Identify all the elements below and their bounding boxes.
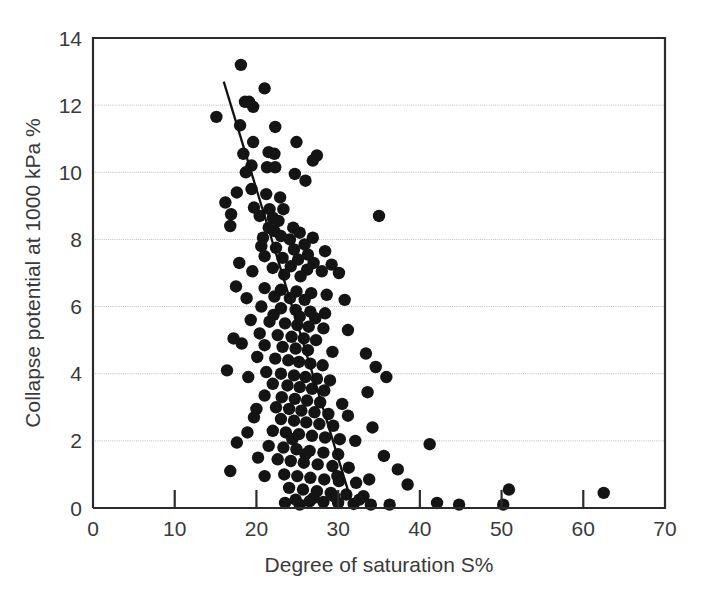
data-point	[289, 342, 301, 354]
data-point	[231, 186, 243, 198]
data-point	[297, 483, 309, 495]
gridlines	[93, 105, 665, 441]
data-point	[269, 161, 281, 173]
data-point	[313, 418, 325, 430]
x-tick-label: 20	[245, 517, 268, 540]
data-point	[240, 292, 252, 304]
data-point	[290, 136, 302, 148]
data-point	[308, 406, 320, 418]
data-point	[258, 389, 270, 401]
data-point	[225, 208, 237, 220]
y-tick-label: 4	[70, 362, 82, 385]
data-point	[263, 315, 275, 327]
y-tick-label: 0	[70, 497, 82, 520]
data-point	[317, 446, 329, 458]
data-point	[221, 364, 233, 376]
data-point	[295, 404, 307, 416]
data-point	[279, 317, 291, 329]
data-point	[285, 455, 297, 467]
data-point	[317, 322, 329, 334]
data-point	[274, 191, 286, 203]
data-point	[370, 361, 382, 373]
data-point	[363, 473, 375, 485]
data-point	[271, 453, 283, 465]
data-point	[260, 188, 272, 200]
data-point	[258, 250, 270, 262]
data-point	[380, 371, 392, 383]
data-point	[257, 232, 269, 244]
plot-frame	[93, 38, 665, 508]
data-point	[342, 409, 354, 421]
data-point	[361, 386, 373, 398]
data-point	[255, 300, 267, 312]
data-point	[269, 121, 281, 133]
data-point	[258, 82, 270, 94]
data-point	[294, 381, 306, 393]
y-axis-tick-labels: 02468101214	[59, 27, 83, 520]
x-tick-label: 30	[326, 517, 349, 540]
y-tick-label: 10	[59, 161, 82, 184]
data-point	[321, 289, 333, 301]
data-point	[278, 468, 290, 480]
data-point	[267, 425, 279, 437]
x-axis-tick-labels: 010203040506070	[87, 517, 677, 540]
data-point	[306, 430, 318, 442]
data-point	[247, 136, 259, 148]
data-point	[283, 403, 295, 415]
data-point	[254, 327, 266, 339]
data-point	[270, 401, 282, 413]
data-point	[373, 210, 385, 222]
x-tick-label: 0	[87, 517, 99, 540]
x-tick-label: 40	[408, 517, 431, 540]
data-point	[231, 436, 243, 448]
data-point	[262, 440, 274, 452]
data-point	[268, 148, 280, 160]
data-point	[316, 265, 328, 277]
data-point	[241, 426, 253, 438]
data-point	[353, 493, 365, 505]
chart-figure: 010203040506070 02468101214 Degree of sa…	[0, 0, 712, 590]
x-axis-ticks	[175, 490, 584, 508]
data-point	[338, 294, 350, 306]
data-point	[401, 478, 413, 490]
data-point	[598, 487, 610, 499]
data-point	[343, 462, 355, 474]
data-point	[210, 111, 222, 123]
data-point	[282, 354, 294, 366]
data-point	[312, 458, 324, 470]
y-tick-label: 2	[70, 429, 82, 452]
data-point	[286, 433, 298, 445]
data-point	[219, 196, 231, 208]
data-point	[366, 421, 378, 433]
data-points	[210, 59, 610, 511]
data-point	[281, 379, 293, 391]
data-point	[294, 270, 306, 282]
data-point	[285, 331, 297, 343]
data-point	[318, 473, 330, 485]
data-point	[267, 378, 279, 390]
data-point	[316, 359, 328, 371]
data-point	[224, 465, 236, 477]
data-point	[235, 59, 247, 71]
data-point	[293, 356, 305, 368]
data-point	[277, 203, 289, 215]
data-point	[252, 451, 264, 463]
data-point	[258, 470, 270, 482]
data-point	[258, 339, 270, 351]
data-point	[271, 329, 283, 341]
data-point	[258, 282, 270, 294]
y-axis-title: Collapse potential at 1000 kPa %	[21, 118, 44, 427]
data-point	[246, 265, 258, 277]
x-tick-label: 70	[653, 517, 676, 540]
scatter-plot-svg: 010203040506070 02468101214 Degree of sa…	[0, 0, 712, 590]
data-point	[350, 477, 362, 489]
x-tick-label: 50	[490, 517, 513, 540]
data-point	[300, 416, 312, 428]
data-point	[392, 463, 404, 475]
data-point	[342, 324, 354, 336]
y-tick-label: 12	[59, 94, 82, 117]
y-tick-label: 14	[59, 27, 83, 50]
data-point	[378, 450, 390, 462]
y-tick-label: 6	[70, 295, 82, 318]
y-tick-label: 8	[70, 228, 82, 251]
